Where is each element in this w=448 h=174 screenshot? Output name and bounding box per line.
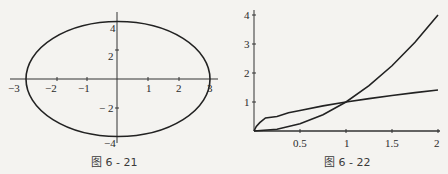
figure-caption: 图 6 - 22: [324, 156, 370, 169]
x-tick-label: −1: [78, 82, 90, 94]
x-tick-label: 1: [344, 137, 350, 149]
x-tick-label: −2: [45, 82, 57, 94]
x-tick-label: 2: [176, 82, 182, 94]
figure-6-21: −3 −2 −1 1 2 3 4 2 − 2 −4 图 6 - 21: [8, 12, 218, 169]
y-tick-label: 1: [244, 96, 250, 108]
y-tick-label: 2: [244, 67, 250, 79]
y-tick-label: 3: [244, 38, 250, 50]
x-tick-label: 3: [207, 82, 213, 94]
x-tick-label: 0.5: [293, 137, 307, 149]
y-tick-label: −4: [104, 137, 116, 149]
y-tick-label: 2: [108, 50, 114, 62]
figure-caption: 图 6 - 21: [91, 156, 137, 169]
x-tick-label: 1.5: [385, 137, 399, 149]
figure-canvas: −3 −2 −1 1 2 3 4 2 − 2 −4 图 6 - 21 0.5 1…: [0, 0, 448, 174]
y-tick-label: 4: [244, 9, 250, 21]
x-tick-label: 2: [434, 137, 440, 149]
y-tick-label: − 2: [99, 102, 113, 114]
figure-6-22: 0.5 1 1.5 2 4 3 2 1 图 6 - 22: [244, 9, 440, 169]
x-tick-label: 1: [146, 82, 152, 94]
curve-sqrt-x: [254, 90, 438, 131]
x-tick-label: −3: [8, 82, 20, 94]
y-tick-label: 4: [110, 22, 116, 34]
curve-x-squared: [254, 15, 438, 131]
